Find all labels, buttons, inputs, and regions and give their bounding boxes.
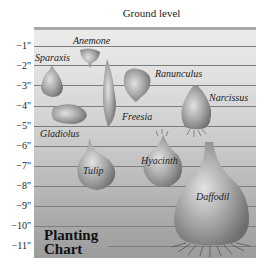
label-narcissus: Narcissus <box>209 93 248 103</box>
ranunculus-bulb-icon <box>124 68 151 102</box>
chart-title-line1: Planting <box>44 228 98 242</box>
sparaxis-bulb-icon <box>41 65 63 97</box>
chart-title: Planting Chart <box>44 228 98 256</box>
anemone-bulb-icon <box>80 49 100 69</box>
gladiolus-bulb-icon <box>52 104 88 124</box>
chart-title-line2: Chart <box>44 242 98 256</box>
label-ranunculus: Ranunculus <box>155 69 202 79</box>
narcissus-bulb-icon <box>181 86 211 137</box>
label-gladiolus: Gladiolus <box>40 129 79 139</box>
label-anemone: Anemone <box>73 36 110 46</box>
label-tulip: Tulip <box>83 166 104 176</box>
label-daffodil: Daffodil <box>196 192 229 202</box>
label-freesia: Freesia <box>122 112 152 122</box>
label-hyacinth: Hyacinth <box>141 156 178 166</box>
label-sparaxis: Sparaxis <box>35 53 70 63</box>
freesia-bulb-icon <box>103 59 116 127</box>
